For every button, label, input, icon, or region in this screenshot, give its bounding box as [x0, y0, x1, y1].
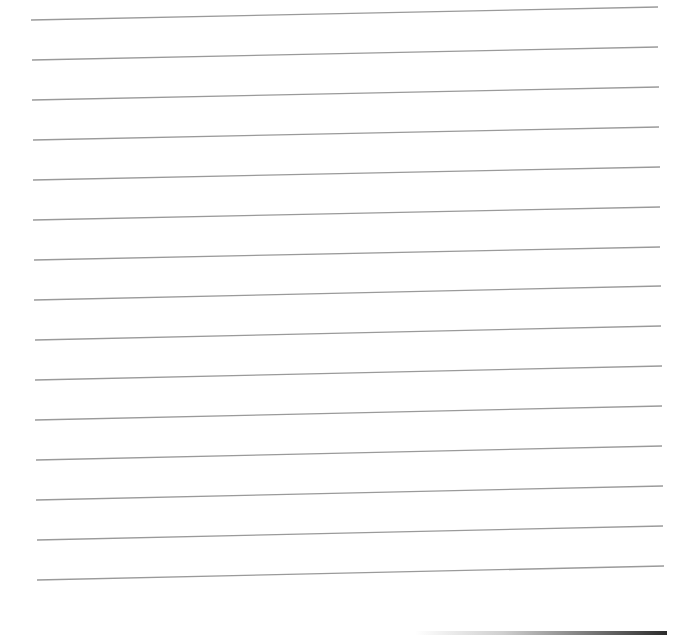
ruled-line [32, 87, 659, 100]
ruled-line [37, 526, 663, 540]
ruled-line [36, 486, 663, 500]
ruled-line [35, 366, 662, 380]
ruled-line [33, 127, 659, 140]
ruled-line [36, 446, 662, 460]
ruled-line [35, 326, 661, 340]
ruled-line [33, 167, 660, 180]
ruled-line [32, 47, 658, 60]
ruled-lines [0, 0, 694, 635]
lined-paper-page [0, 0, 694, 635]
ruled-line [33, 207, 660, 220]
ruled-line [31, 7, 658, 20]
bottom-edge-shadow [415, 631, 667, 635]
ruled-line [37, 566, 664, 580]
ruled-line [34, 247, 660, 260]
ruled-line [35, 406, 662, 420]
ruled-line [34, 286, 661, 300]
